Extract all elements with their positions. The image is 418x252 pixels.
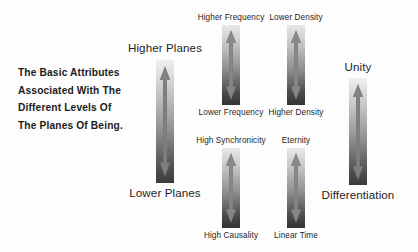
axis-label-unity-top: Unity [345,60,372,73]
description-text-block: The Basic Attributes Associated With The… [18,64,148,134]
axis-label-planes-top: Higher Planes [128,41,202,54]
axis-label-eternity-top: Eternity [282,136,311,145]
axis-label-density-top: Lower Density [269,13,322,22]
diagram-canvas: The Basic Attributes Associated With The… [0,0,418,252]
axis-label-causality-bottom: High Causality [204,231,258,240]
double-headed-arrow-icon [222,25,240,105]
axis-arrow-density [287,25,305,105]
axis-label-synchronicity-top: High Synchronicity [196,136,266,145]
description-line: The Basic Attributes [18,64,148,82]
axis-label-frequency-top: Higher Frequency [198,13,265,22]
description-line: The Planes Of Being. [18,117,148,135]
axis-arrow-planes [156,60,174,183]
double-headed-arrow-icon [222,148,240,228]
axis-arrow-time [287,148,305,228]
double-headed-arrow-icon [156,60,174,183]
axis-arrow-frequency [222,25,240,105]
axis-label-frequency-bottom: Lower Frequency [199,108,264,117]
description-line: Associated With The [18,82,148,100]
description-line: Different Levels Of [18,99,148,117]
axis-label-density-bottom: Higher Density [268,108,323,117]
axis-label-planes-bottom: Lower Planes [129,186,200,199]
double-headed-arrow-icon [349,78,367,185]
double-headed-arrow-icon [287,148,305,228]
axis-arrow-synchronicity [222,148,240,228]
double-headed-arrow-icon [287,25,305,105]
axis-arrow-unity [349,78,367,185]
axis-label-differentiation-bottom: Differentiation [322,188,395,201]
axis-label-linear-time-bottom: Linear Time [274,231,318,240]
